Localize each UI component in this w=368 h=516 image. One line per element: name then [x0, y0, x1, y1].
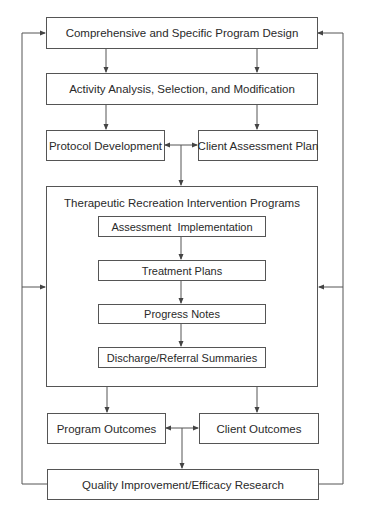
protocol-development-label: Protocol Development — [49, 140, 162, 152]
activity-analysis-box: Activity Analysis, Selection, and Modifi… — [46, 73, 318, 105]
program-design-label: Comprehensive and Specific Program Desig… — [66, 27, 299, 39]
program-outcomes-label: Program Outcomes — [57, 423, 157, 435]
assessment-implementation-box: Assessment Implementation — [98, 216, 266, 237]
assessment-implementation-label: Assessment Implementation — [111, 221, 252, 233]
quality-improvement-box: Quality Improvement/Efficacy Research — [47, 469, 319, 500]
client-assessment-plan-box: Client Assessment Plan — [198, 130, 318, 161]
treatment-plans-label: Treatment Plans — [142, 265, 222, 277]
discharge-summaries-label: Discharge/Referral Summaries — [107, 352, 257, 364]
program-outcomes-box: Program Outcomes — [47, 413, 166, 444]
quality-improvement-label: Quality Improvement/Efficacy Research — [82, 479, 284, 491]
progress-notes-box: Progress Notes — [98, 304, 266, 324]
client-outcomes-label: Client Outcomes — [216, 423, 301, 435]
program-design-box: Comprehensive and Specific Program Desig… — [46, 17, 318, 49]
discharge-summaries-box: Discharge/Referral Summaries — [98, 347, 266, 368]
intervention-programs-title: Therapeutic Recreation Intervention Prog… — [47, 197, 317, 209]
activity-analysis-label: Activity Analysis, Selection, and Modifi… — [69, 83, 295, 95]
treatment-plans-box: Treatment Plans — [98, 260, 266, 281]
client-assessment-plan-label: Client Assessment Plan — [198, 140, 319, 152]
client-outcomes-box: Client Outcomes — [199, 413, 319, 444]
progress-notes-label: Progress Notes — [144, 308, 220, 320]
protocol-development-box: Protocol Development — [46, 130, 165, 161]
